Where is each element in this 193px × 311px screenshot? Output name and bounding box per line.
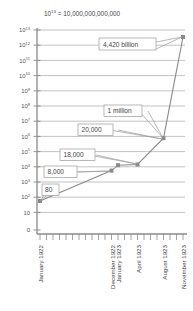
x-axis-label: August 1923 bbox=[161, 244, 168, 279]
x-axis-label: April 1923 bbox=[135, 244, 142, 272]
y-axis-label: 102 bbox=[21, 193, 31, 200]
x-axis-ticks bbox=[40, 234, 183, 240]
annotation-1-million[interactable]: 1 million bbox=[104, 105, 142, 117]
y-axis-label: 1013 bbox=[19, 26, 31, 33]
y-axis-label: 1011 bbox=[19, 56, 31, 63]
y-axis-label: 104 bbox=[21, 163, 31, 170]
leader-line bbox=[96, 155, 137, 164]
leader-line bbox=[156, 37, 182, 42]
data-point[interactable] bbox=[110, 169, 114, 173]
leader-line bbox=[139, 111, 163, 138]
y-axis-label: 109 bbox=[21, 87, 31, 94]
annotation-18000[interactable]: 18,000 bbox=[60, 149, 95, 161]
y-axis-label: 105 bbox=[21, 147, 31, 154]
x-axis-label: November 1923 bbox=[180, 244, 187, 289]
annotation-8000[interactable]: 8,000 bbox=[44, 166, 77, 178]
chart-svg: 1013 = 10,000,000,000,000 bbox=[0, 0, 193, 311]
y-axis-label: 1010 bbox=[19, 71, 31, 78]
y-axis-label: 108 bbox=[21, 102, 31, 109]
data-point[interactable] bbox=[116, 163, 120, 167]
y-axis-label: 10 bbox=[23, 210, 30, 216]
x-axis-label: January 1923 bbox=[115, 244, 122, 282]
y-axis-label: 107 bbox=[21, 117, 31, 124]
callout-label: 20,000 bbox=[82, 126, 103, 133]
callout-label: 4,420 billion bbox=[103, 41, 139, 48]
hyperinflation-chart: 1013 = 10,000,000,000,000 bbox=[0, 0, 193, 311]
callout-label: 1 million bbox=[108, 107, 133, 114]
callout-label: 18,000 bbox=[64, 151, 85, 158]
y-axis-label: 0 bbox=[27, 227, 31, 233]
annotation-4420-billion[interactable]: 4,420 billion bbox=[99, 38, 156, 50]
leader-line bbox=[118, 130, 162, 139]
x-axis-label: January 1922 bbox=[37, 244, 44, 282]
leader-line bbox=[156, 37, 182, 49]
annotation-20000[interactable]: 20,000 bbox=[78, 124, 113, 136]
data-point[interactable] bbox=[136, 163, 140, 167]
leader-line bbox=[78, 171, 111, 172]
y-axis-labels: 1013 1012 1011 1010 109 108 107 106 105 … bbox=[19, 26, 31, 233]
annotation-80[interactable]: 80 bbox=[42, 184, 59, 196]
y-axis-label: 1012 bbox=[19, 41, 31, 48]
x-axis-labels: January 1922 December 1922 January 1923 … bbox=[37, 244, 187, 289]
callout-label: 8,000 bbox=[48, 168, 65, 175]
leader-line bbox=[148, 111, 163, 138]
callout-label: 80 bbox=[45, 186, 53, 193]
scale-note: 1013 = 10,000,000,000,000 bbox=[44, 9, 121, 17]
scale-note-rest: = 10,000,000,000,000 bbox=[56, 10, 121, 17]
y-axis-label: 106 bbox=[21, 132, 31, 139]
y-axis-label: 103 bbox=[21, 178, 31, 185]
